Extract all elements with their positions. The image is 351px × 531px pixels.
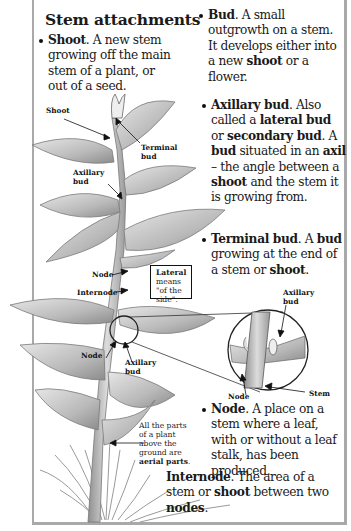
definition-axillary-bud: Axillary bud. Also called a lateral bud … (211, 98, 346, 206)
label-inset-stem: Stem (309, 390, 330, 399)
bullet-icon (202, 104, 206, 108)
label-node-lower: Node (81, 352, 102, 361)
definition-node: Node. A place on a stem where a leaf, wi… (211, 402, 346, 479)
label-shoot: Shoot (46, 107, 70, 116)
lateral-note-box: Lateralmeans "of the side". (150, 265, 192, 299)
label-node: Node (92, 271, 113, 280)
label-terminal-bud: Terminalbud (141, 144, 177, 161)
definition-internode: Internode. The area of a stem or shoot b… (166, 470, 344, 516)
bullet-icon (199, 14, 203, 18)
label-axillary-bud: Axillarybud (73, 169, 104, 186)
label-internode: Internode (77, 289, 118, 298)
bullet-icon (39, 39, 43, 43)
label-axillary-bud-lower: Axillarybud (125, 359, 156, 376)
inset-magnified-node (228, 310, 308, 390)
label-inset-axillary-bud: Axillarybud (283, 289, 314, 306)
aerial-parts-note: All the parts of a plant above the groun… (139, 421, 191, 466)
definition-shoot: Shoot. A new stem growing off the main s… (48, 33, 176, 95)
label-inset-node: Node (228, 393, 249, 402)
definition-bud: Bud. A small outgrowth on a stem. It dev… (208, 8, 340, 85)
definition-terminal-bud: Terminal bud. A bud growing at the end o… (211, 232, 346, 278)
bullet-icon (202, 408, 206, 412)
bullet-icon (202, 238, 206, 242)
page-title: Stem attachments (45, 10, 200, 29)
